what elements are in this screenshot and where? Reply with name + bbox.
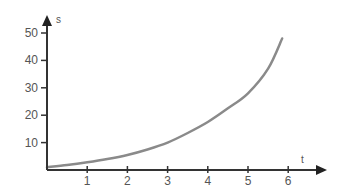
x-tick-label: 4 <box>204 174 211 188</box>
x-tick-label: 1 <box>84 174 91 188</box>
chart: 1234561020304050 s t <box>0 0 340 194</box>
ticks: 1234561020304050 <box>25 26 292 188</box>
x-axis-label: t <box>301 154 304 165</box>
y-axis-label: s <box>56 14 61 25</box>
x-axis-arrow-icon <box>316 165 327 175</box>
data-curve <box>47 38 282 167</box>
y-axis-arrow-icon <box>42 15 52 26</box>
axes <box>42 15 327 175</box>
x-tick-label: 5 <box>245 174 252 188</box>
y-tick-label: 50 <box>25 26 39 40</box>
series-line <box>47 38 282 167</box>
y-tick-label: 30 <box>25 81 39 95</box>
y-tick-label: 40 <box>25 53 39 67</box>
y-tick-label: 20 <box>25 108 39 122</box>
x-tick-label: 3 <box>164 174 171 188</box>
x-tick-label: 2 <box>124 174 131 188</box>
y-tick-label: 10 <box>25 136 39 150</box>
x-tick-label: 6 <box>285 174 292 188</box>
